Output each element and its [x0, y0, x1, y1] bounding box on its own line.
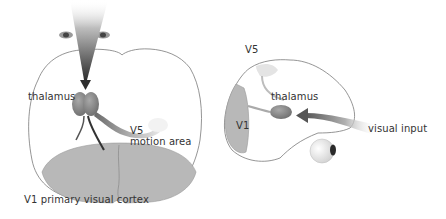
- label-v5-side: V5: [245, 44, 258, 55]
- brain-diagram: [0, 0, 446, 219]
- label-v5-top: V5: [130, 125, 143, 136]
- label-thalamus-side: thalamus: [271, 91, 318, 102]
- label-motion-area: motion area: [130, 136, 192, 147]
- label-v1-side: V1: [236, 120, 249, 131]
- thalamus-side: [270, 105, 292, 119]
- label-visual-input: visual input: [368, 123, 427, 134]
- side-view-brain: [224, 60, 378, 163]
- label-thalamus-top: thalamus: [28, 91, 75, 102]
- v5-spot-top: [148, 118, 168, 132]
- label-v1-primary-visual-cortex: V1 primary visual cortex: [24, 194, 149, 205]
